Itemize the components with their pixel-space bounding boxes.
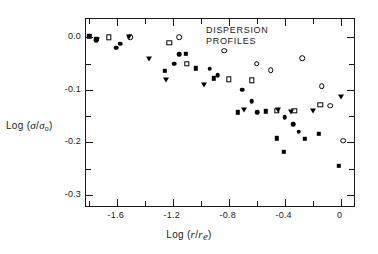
y-axis-tick-label: -0.2 bbox=[65, 136, 81, 146]
x-axis-tick bbox=[313, 19, 314, 24]
data-point-open-circle bbox=[268, 67, 274, 73]
y-axis-tick bbox=[347, 142, 354, 143]
data-point-filled-square bbox=[275, 136, 279, 140]
y-axis-tick-label: -0.3 bbox=[65, 189, 81, 199]
data-point-filled-square bbox=[317, 132, 321, 136]
y-axis-tick bbox=[86, 142, 93, 143]
data-point-open-circle bbox=[222, 48, 228, 54]
data-point-filled-triangle-down bbox=[338, 94, 344, 99]
data-point-open-square bbox=[226, 77, 231, 82]
y-axis-tick bbox=[347, 195, 354, 196]
y-axis-tick bbox=[86, 64, 91, 65]
y-axis-tick bbox=[349, 64, 354, 65]
y-axis-tick-label: 0.0 bbox=[68, 31, 81, 41]
data-point-filled-triangle-down bbox=[288, 110, 294, 115]
data-point-filled-circle bbox=[282, 115, 287, 120]
y-axis-tick bbox=[86, 169, 91, 170]
x-axis-tick bbox=[201, 201, 202, 206]
data-point-filled-square bbox=[336, 164, 340, 168]
x-axis-tick bbox=[313, 201, 314, 206]
x-axis-tick bbox=[341, 19, 342, 26]
data-point-filled-circle bbox=[177, 52, 182, 57]
data-point-filled-square bbox=[194, 66, 198, 70]
y-axis-tick bbox=[347, 90, 354, 91]
data-point-open-circle bbox=[176, 35, 182, 41]
x-axis-tick bbox=[173, 199, 174, 206]
data-point-filled-square bbox=[282, 150, 286, 154]
x-axis-tick bbox=[145, 19, 146, 24]
data-point-open-circle bbox=[327, 103, 333, 109]
y-axis-tick-label: -0.1 bbox=[65, 84, 81, 94]
data-point-filled-square bbox=[264, 109, 268, 113]
x-axis-tick bbox=[173, 19, 174, 26]
data-point-filled-circle bbox=[208, 67, 213, 72]
x-axis-tick-label: 0 bbox=[337, 210, 342, 220]
x-axis-tick-label: -0.8 bbox=[220, 210, 236, 220]
data-point-filled-square bbox=[184, 51, 188, 55]
x-axis-tick bbox=[229, 199, 230, 206]
x-axis-tick bbox=[285, 19, 286, 26]
x-axis-tick bbox=[285, 199, 286, 206]
y-axis-tick bbox=[86, 90, 93, 91]
data-point-filled-triangle-down bbox=[310, 108, 316, 113]
dispersion-profiles-figure: -1.6-1.2-0.8-0.400.0-0.1-0.2-0.3 Log (r/… bbox=[0, 0, 378, 254]
x-axis-tick bbox=[117, 19, 118, 26]
data-point-filled-circle bbox=[118, 41, 123, 46]
x-axis-label: Log (r/re) bbox=[0, 228, 378, 242]
data-point-filled-triangle-down bbox=[126, 35, 132, 40]
x-axis-tick bbox=[341, 199, 342, 206]
x-axis-tick bbox=[257, 19, 258, 24]
x-axis-tick-label: -1.2 bbox=[164, 210, 180, 220]
data-point-filled-square bbox=[236, 110, 240, 114]
data-point-filled-triangle-down bbox=[275, 107, 281, 112]
x-axis-tick bbox=[201, 19, 202, 24]
data-point-open-square bbox=[106, 35, 111, 40]
data-point-filled-triangle-down bbox=[146, 57, 152, 62]
data-point-filled-circle bbox=[249, 99, 254, 104]
x-axis-tick-label: -0.4 bbox=[275, 210, 291, 220]
data-point-filled-circle bbox=[291, 122, 296, 127]
y-axis-tick bbox=[86, 37, 93, 38]
y-axis-tick bbox=[86, 116, 91, 117]
data-point-open-circle bbox=[341, 138, 347, 144]
y-axis-tick bbox=[86, 195, 93, 196]
data-point-filled-circle bbox=[215, 73, 220, 78]
data-point-filled-square bbox=[303, 136, 307, 140]
data-point-filled-circle bbox=[240, 88, 245, 93]
chart-annotation: DISPERSION PROFILES bbox=[206, 25, 269, 47]
data-point-filled-triangle-down bbox=[94, 38, 100, 43]
plot-area bbox=[86, 19, 354, 206]
x-axis-tick bbox=[117, 199, 118, 206]
data-point-filled-circle bbox=[172, 61, 177, 66]
data-point-filled-square bbox=[163, 69, 167, 73]
data-point-open-circle bbox=[254, 61, 260, 67]
x-axis-tick bbox=[257, 201, 258, 206]
data-point-open-square bbox=[167, 40, 172, 45]
data-point-filled-circle bbox=[114, 46, 119, 51]
data-point-open-square bbox=[184, 61, 189, 66]
y-axis-tick bbox=[347, 37, 354, 38]
data-point-open-square bbox=[249, 78, 254, 83]
x-axis-tick bbox=[145, 201, 146, 206]
data-point-open-square bbox=[318, 102, 323, 107]
data-point-filled-triangle-down bbox=[201, 82, 207, 87]
y-axis-tick bbox=[349, 169, 354, 170]
data-point-open-circle bbox=[299, 56, 305, 62]
data-point-filled-triangle-down bbox=[163, 78, 169, 83]
data-point-filled-circle bbox=[296, 130, 301, 135]
data-point-filled-circle bbox=[255, 110, 260, 115]
y-axis-label: Log (σ/σo) bbox=[6, 119, 53, 132]
data-point-filled-triangle-down bbox=[241, 107, 247, 112]
x-axis-tick bbox=[89, 201, 90, 206]
x-axis-tick-label: -1.6 bbox=[108, 210, 124, 220]
data-point-open-circle bbox=[319, 83, 325, 89]
y-axis-tick bbox=[349, 116, 354, 117]
x-axis-tick bbox=[89, 19, 90, 24]
